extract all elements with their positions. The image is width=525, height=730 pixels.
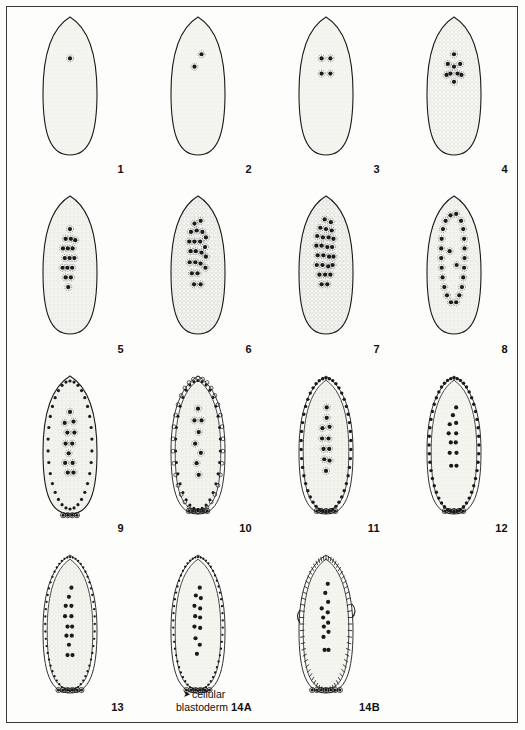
panel-number-label: 10 — [239, 522, 252, 534]
panel-number-label: 7 — [374, 343, 380, 355]
annotation-arrow-icon: ➤ — [183, 688, 191, 700]
embryo-illustration — [157, 550, 239, 698]
panel-number-label: 14B — [359, 701, 380, 713]
panel-3: 3 — [262, 6, 390, 185]
annotation-text-blastoderm: blastoderm — [176, 701, 262, 713]
egg-diagram — [285, 371, 367, 519]
panel-13: 13 — [6, 544, 134, 723]
embryo-illustration — [285, 550, 367, 698]
panel-12: 12 — [390, 365, 518, 544]
embryo-illustration — [413, 191, 495, 339]
panel-7: 7 — [262, 185, 390, 364]
panel-number-label: 12 — [495, 522, 508, 534]
panel-number-label: 1 — [118, 163, 124, 175]
embryo-illustration — [29, 371, 111, 519]
annotation-text-cellular: cellular — [192, 688, 225, 700]
panel-number-label: 4 — [502, 163, 508, 175]
panel-number-label: 5 — [118, 343, 124, 355]
panel-number-label: 13 — [111, 701, 124, 713]
embryo-illustration — [157, 12, 239, 160]
panel-2: 2 — [134, 6, 262, 185]
panel-4: 4 — [390, 6, 518, 185]
panel-10: 10 — [134, 365, 262, 544]
panel-number-label: 6 — [246, 343, 252, 355]
embryo-illustration — [29, 550, 111, 698]
embryo-illustration — [285, 191, 367, 339]
figure-plate: 1234567891011121314A14B➤cellularblastode… — [0, 0, 525, 730]
egg-diagram — [157, 12, 239, 160]
panel-6: 6 — [134, 185, 262, 364]
panel-number-label: 9 — [118, 522, 124, 534]
panel-8: 8 — [390, 185, 518, 364]
egg-diagram — [413, 191, 495, 339]
egg-diagram — [29, 371, 111, 519]
panel-5: 5 — [6, 185, 134, 364]
embryo-illustration — [413, 371, 495, 519]
egg-diagram — [285, 550, 367, 698]
egg-diagram — [29, 550, 111, 698]
embryo-illustration — [285, 371, 367, 519]
panel-number-label: 2 — [246, 163, 252, 175]
embryo-illustration — [157, 371, 239, 519]
panel-number-label: 3 — [374, 163, 380, 175]
panel-grid: 1234567891011121314A14B➤cellularblastode… — [6, 6, 518, 723]
panel-number-label: 11 — [368, 522, 380, 534]
panel-number-label: 8 — [502, 343, 508, 355]
egg-diagram — [413, 371, 495, 519]
embryo-illustration — [29, 12, 111, 160]
embryo-illustration — [29, 191, 111, 339]
panel-11: 11 — [262, 365, 390, 544]
cellular-blastoderm-annotation: ➤cellularblastoderm — [176, 688, 262, 713]
panel-9: 9 — [6, 365, 134, 544]
panel-1: 1 — [6, 6, 134, 185]
panel-14B: 14B➤cellularblastoderm — [262, 544, 390, 723]
egg-diagram — [157, 191, 239, 339]
egg-diagram — [29, 12, 111, 160]
egg-diagram — [157, 371, 239, 519]
egg-diagram — [29, 191, 111, 339]
egg-diagram — [413, 12, 495, 160]
embryo-illustration — [413, 12, 495, 160]
embryo-illustration — [285, 12, 367, 160]
egg-diagram — [157, 550, 239, 698]
annotation-line-1: ➤cellular — [183, 688, 262, 701]
egg-diagram — [285, 12, 367, 160]
embryo-illustration — [157, 191, 239, 339]
egg-diagram — [285, 191, 367, 339]
